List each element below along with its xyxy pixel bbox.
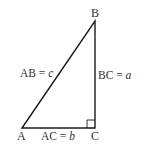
side-label-ac: AC = b [41, 130, 75, 142]
vertex-label-c: C [91, 129, 99, 143]
right-angle-marker [87, 120, 95, 128]
vertex-label-a: A [17, 129, 26, 143]
side-label-bc: BC = a [98, 69, 132, 81]
side-label-ab: AB = c [20, 67, 53, 79]
vertex-label-b: B [91, 6, 99, 20]
triangle-diagram: B A C AB = c BC = a AC = b [0, 0, 145, 151]
